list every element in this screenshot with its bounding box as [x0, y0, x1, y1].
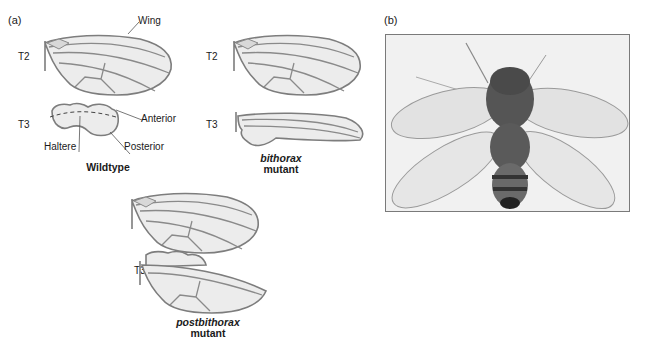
postbithorax-t3-wing-icon — [140, 251, 270, 317]
wing-callout: Wing — [138, 15, 161, 27]
wildtype-t2-label: T2 — [18, 51, 30, 63]
panel-a-label: (a) — [8, 14, 21, 26]
four-winged-fly-photo — [385, 34, 630, 212]
bithorax-t2-label: T2 — [206, 51, 218, 63]
posterior-callout: Posterior — [124, 141, 164, 153]
bithorax-caption-line2: mutant — [264, 163, 299, 175]
postbithorax-caption-line2: mutant — [191, 327, 226, 339]
panel-b-label: (b) — [384, 14, 397, 26]
anterior-callout: Anterior — [141, 113, 176, 125]
haltere-callout: Haltere — [44, 141, 76, 153]
postbithorax-caption: postbithorax mutant — [168, 317, 248, 339]
bithorax-caption: bithorax mutant — [246, 153, 316, 175]
wildtype-t2-wing-icon — [45, 33, 175, 99]
fly-icon — [386, 35, 630, 212]
bithorax-t2-wing-icon — [234, 33, 364, 99]
wildtype-t3-label: T3 — [18, 119, 30, 131]
postbithorax-t2-wing-icon — [132, 191, 262, 257]
wildtype-caption: Wildtype — [78, 162, 138, 173]
bithorax-t3-wing-icon — [236, 110, 366, 150]
bithorax-t3-label: T3 — [206, 119, 218, 131]
